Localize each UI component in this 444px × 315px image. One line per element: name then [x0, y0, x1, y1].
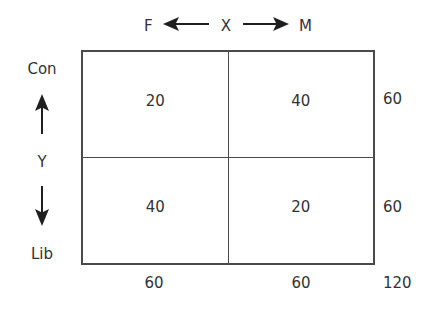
row-totals-column: 60 60	[383, 50, 435, 265]
table-row: 20 40	[83, 52, 373, 158]
x-axis-high-label: M	[299, 19, 312, 34]
cell-con-f: 20	[83, 52, 228, 158]
row-total-con: 60	[383, 92, 402, 107]
cell-value: 40	[146, 200, 165, 215]
crosstab-grid: 20 40 40 20	[81, 50, 375, 265]
contingency-table-figure: F X M Con Y Lib	[0, 0, 444, 315]
row-total-lib: 60	[383, 200, 402, 215]
arrow-up-icon	[34, 94, 50, 138]
x-axis-low-label: F	[144, 19, 153, 34]
y-axis-top-label: Con	[27, 62, 56, 77]
column-total-m: 60	[291, 276, 310, 291]
column-total-f: 60	[144, 276, 163, 291]
y-axis-header: Con Y Lib	[8, 62, 76, 262]
cell-lib-m: 20	[228, 158, 373, 264]
x-axis-name-label: X	[219, 19, 233, 34]
arrow-right-icon	[243, 16, 289, 36]
x-axis-header: F X M	[81, 14, 375, 38]
cell-value: 20	[146, 94, 165, 109]
y-axis-name-label: Y	[37, 155, 46, 170]
cell-con-m: 40	[228, 52, 373, 158]
cell-lib-f: 40	[83, 158, 228, 264]
y-axis-bottom-label: Lib	[31, 247, 53, 262]
crosstab-table: 20 40 40 20	[83, 52, 373, 263]
table-row: 40 20	[83, 158, 373, 264]
cell-value: 20	[291, 200, 310, 215]
cell-value: 40	[291, 94, 310, 109]
grand-total: 120	[383, 276, 412, 291]
column-totals-row: 60 60 120	[81, 276, 435, 298]
arrow-left-icon	[163, 16, 209, 36]
arrow-down-icon	[34, 186, 50, 230]
